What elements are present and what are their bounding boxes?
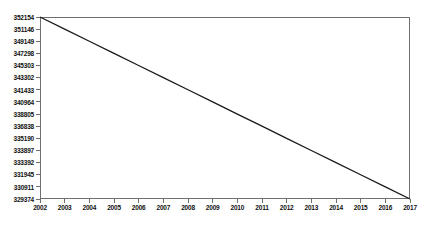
x-axis-tick-mark: [237, 199, 238, 203]
x-axis-tick-mark: [114, 199, 115, 203]
x-axis-tick-label: 2008: [181, 205, 195, 212]
x-axis-tick-mark: [138, 199, 139, 203]
x-axis-tick-label: 2012: [280, 205, 294, 212]
x-axis-tick-mark: [385, 199, 386, 203]
x-axis-tick-label: 2005: [107, 205, 121, 212]
x-axis-tick-mark: [360, 199, 361, 203]
x-axis-tick-label: 2010: [231, 205, 245, 212]
x-axis-tick-label: 2003: [58, 205, 72, 212]
x-axis-tick-mark: [89, 199, 90, 203]
x-axis-tick-mark: [212, 199, 213, 203]
x-axis: 2002200320042005200620072008200920102011…: [0, 0, 426, 229]
x-axis-tick-label: 2017: [403, 205, 417, 212]
x-axis-tick-mark: [163, 199, 164, 203]
x-axis-tick-mark: [311, 199, 312, 203]
x-axis-tick-mark: [336, 199, 337, 203]
x-axis-tick-label: 2009: [206, 205, 220, 212]
x-axis-tick-mark: [188, 199, 189, 203]
x-axis-tick-mark: [40, 199, 41, 203]
x-axis-tick-mark: [262, 199, 263, 203]
x-axis-tick-label: 2014: [329, 205, 343, 212]
x-axis-tick-label: 2007: [157, 205, 171, 212]
x-axis-tick-mark: [410, 199, 411, 203]
x-axis-tick-label: 2013: [305, 205, 319, 212]
x-axis-tick-label: 2011: [255, 205, 268, 212]
x-axis-tick-label: 2004: [83, 205, 97, 212]
x-axis-tick-label: 2016: [379, 205, 393, 212]
x-axis-tick-label: 2002: [33, 205, 47, 212]
x-axis-tick-label: 2015: [354, 205, 368, 212]
x-axis-tick-mark: [286, 199, 287, 203]
line-chart: 3521543511463491493472983453033433023414…: [0, 0, 426, 229]
x-axis-tick-mark: [64, 199, 65, 203]
x-axis-tick-label: 2006: [132, 205, 146, 212]
